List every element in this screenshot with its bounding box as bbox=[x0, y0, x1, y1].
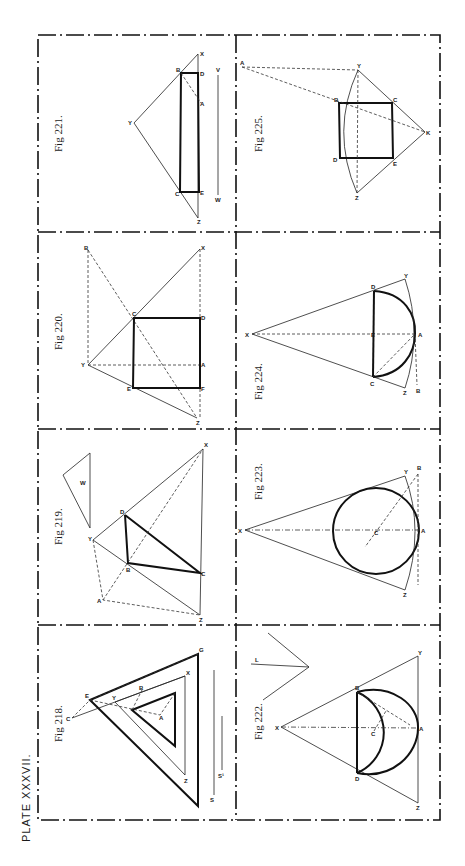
point-label: B bbox=[84, 245, 89, 251]
figure-caption: Fig 221. bbox=[52, 115, 64, 152]
point-label: V bbox=[216, 67, 220, 73]
figure-219: Fig 219. X D Y B C A Z W bbox=[52, 442, 208, 623]
point-label: Y bbox=[404, 273, 408, 279]
point-label: D bbox=[120, 509, 125, 515]
point-label: S bbox=[210, 797, 214, 803]
figure-225: Fig 225. A Y B C K D E Z bbox=[240, 60, 431, 201]
point-label: D bbox=[333, 157, 338, 163]
point-label: Y bbox=[88, 536, 92, 542]
point-label: K bbox=[426, 130, 431, 136]
figure-caption: Fig 224. bbox=[252, 363, 264, 400]
point-label: B bbox=[416, 388, 421, 394]
point-label: X bbox=[275, 725, 279, 731]
point-label: E bbox=[200, 190, 204, 196]
point-label: Z bbox=[416, 805, 420, 811]
point-label: C bbox=[371, 731, 376, 737]
point-label: L bbox=[255, 657, 259, 663]
point-label: Z bbox=[403, 390, 407, 396]
point-label: Y bbox=[418, 650, 422, 656]
point-label: Y bbox=[81, 362, 85, 368]
point-label: B bbox=[355, 685, 360, 691]
figure-caption: Fig 218. bbox=[52, 705, 64, 742]
figure-223-labels: X C Y B A Z bbox=[238, 465, 426, 598]
point-label: X bbox=[204, 442, 208, 448]
point-label: D bbox=[201, 315, 206, 321]
plate-frame bbox=[38, 35, 440, 820]
point-label: B bbox=[176, 67, 181, 73]
point-label: F bbox=[201, 386, 205, 392]
point-label: D bbox=[371, 284, 376, 290]
point-label: W bbox=[215, 197, 221, 203]
point-label: X bbox=[238, 528, 242, 534]
point-label: Z bbox=[403, 592, 407, 598]
point-label: A bbox=[201, 362, 206, 368]
figure-221: Fig 221. X B D A Y C E Z V W bbox=[52, 51, 221, 225]
point-label: Y bbox=[404, 469, 408, 475]
point-label: X bbox=[245, 332, 249, 338]
point-label: C bbox=[201, 571, 206, 577]
point-label: Z bbox=[355, 195, 359, 201]
point-label: C bbox=[132, 311, 137, 317]
point-label: E bbox=[127, 386, 131, 392]
point-label: A bbox=[421, 528, 426, 534]
figure-221-labels: X B D A Y C E Z V W bbox=[128, 51, 221, 225]
point-label: A bbox=[97, 598, 102, 604]
point-label: X bbox=[200, 51, 204, 57]
point-label: Y bbox=[112, 695, 116, 701]
point-label: A bbox=[200, 101, 205, 107]
point-label: C bbox=[374, 530, 379, 536]
point-label: Y bbox=[357, 63, 361, 69]
point-label: A bbox=[159, 715, 164, 721]
point-label: W bbox=[80, 480, 86, 486]
point-label: G bbox=[199, 647, 204, 653]
figure-caption: Fig 225. bbox=[252, 115, 264, 152]
point-label: B bbox=[417, 465, 422, 471]
plate-xxxvii: PLATE XXXVII. Fig 218. C E Y B A X G Z S… bbox=[0, 0, 465, 866]
point-label: X bbox=[201, 245, 205, 251]
figure-223: Fig 223. X C Y B A Z bbox=[238, 463, 426, 598]
point-label: X bbox=[186, 670, 190, 676]
figure-caption: Fig 220. bbox=[52, 313, 64, 350]
figure-222-labels: L X B D C A Y Z bbox=[255, 650, 424, 811]
point-label: Y bbox=[128, 120, 132, 126]
point-label: E bbox=[85, 693, 89, 699]
point-label: A bbox=[240, 60, 245, 66]
point-label: B bbox=[126, 567, 131, 573]
point-label: E bbox=[393, 161, 397, 167]
point-label: E bbox=[371, 332, 375, 338]
point-label: A bbox=[418, 332, 423, 338]
point-label: Z bbox=[184, 778, 188, 784]
point-label: B bbox=[139, 685, 144, 691]
point-label: C bbox=[66, 716, 71, 722]
point-label: B bbox=[334, 97, 339, 103]
point-label: A bbox=[419, 726, 424, 732]
point-label: S¹ bbox=[218, 773, 224, 779]
figure-225-labels: A Y B C K D E Z bbox=[240, 60, 431, 201]
point-label: Z bbox=[199, 617, 203, 623]
point-label: Z bbox=[196, 420, 200, 426]
figure-caption: Fig 223. bbox=[252, 463, 264, 500]
figure-222: Fig 222. L X B D C A Y Z bbox=[251, 633, 424, 811]
point-label: C bbox=[175, 191, 180, 197]
figure-224-labels: X D Y E A C Z B bbox=[245, 273, 423, 396]
point-label: D bbox=[355, 776, 360, 782]
figure-218-labels: C E Y B A X G Z S S¹ bbox=[66, 647, 224, 803]
point-label: D bbox=[200, 71, 205, 77]
point-label: Z bbox=[197, 219, 201, 225]
figure-224: Fig 224. X D Y E A C Z B bbox=[245, 273, 423, 400]
figure-caption: Fig 219. bbox=[52, 508, 64, 545]
point-label: C bbox=[370, 381, 375, 387]
figure-219-labels: X D Y B C A Z W bbox=[80, 442, 208, 623]
figure-220: Fig 220. B X C D Y A E F Z bbox=[52, 245, 206, 426]
figure-218: Fig 218. C E Y B A X G Z S S¹ bbox=[52, 647, 224, 806]
plate-title: PLATE XXXVII. bbox=[20, 753, 32, 842]
point-label: C bbox=[393, 97, 398, 103]
figure-caption: Fig 222. bbox=[252, 703, 264, 740]
